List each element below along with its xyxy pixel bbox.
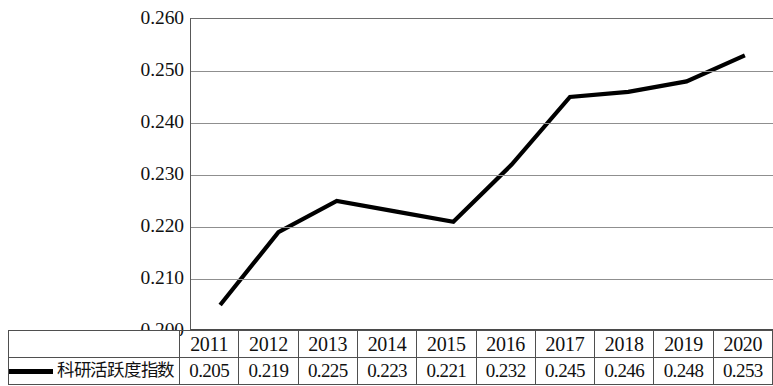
plot-area: [190, 18, 773, 330]
table-header-year: 2015: [417, 331, 476, 358]
data-table: 2011201220132014201520162017201820192020…: [8, 330, 773, 385]
series-line-科研活跃度指数: [220, 55, 745, 305]
table-header-year: 2012: [239, 331, 298, 358]
table-cell-value: 0.205: [180, 358, 239, 385]
table-cell-value: 0.221: [417, 358, 476, 385]
gridline-0.240: [191, 123, 773, 124]
table-header-year: 2011: [180, 331, 239, 358]
table-row-values: 科研活跃度指数 0.2050.2190.2250.2230.2210.2320.…: [9, 358, 773, 385]
legend-label: 科研活跃度指数: [57, 362, 174, 380]
y-axis-tick-label: 0.250: [141, 59, 184, 81]
y-axis-tick-label: 0.230: [141, 163, 184, 185]
table-cell-value: 0.245: [535, 358, 594, 385]
table-cell-value: 0.219: [239, 358, 298, 385]
gridline-0.250: [191, 71, 773, 72]
data-table-wrap: 2011201220132014201520162017201820192020…: [8, 330, 773, 386]
legend-entry: 科研活跃度指数: [9, 358, 180, 385]
table-header-year: 2018: [595, 331, 654, 358]
gridline-0.210: [191, 279, 773, 280]
table-cell-value: 0.248: [654, 358, 713, 385]
y-axis-tick-label: 0.220: [141, 215, 184, 237]
table-header-year: 2020: [713, 331, 772, 358]
y-axis-tick-label: 0.240: [141, 111, 184, 133]
table-row-years: 2011201220132014201520162017201820192020: [9, 331, 773, 358]
gridline-0.230: [191, 175, 773, 176]
table-cell-value: 0.253: [713, 358, 772, 385]
y-axis-tick-label: 0.210: [141, 267, 184, 289]
table-cell-value: 0.232: [476, 358, 535, 385]
table-cell-value: 0.225: [298, 358, 357, 385]
y-axis-tick-label: 0.260: [141, 7, 184, 29]
table-cell-value: 0.246: [595, 358, 654, 385]
table-header-year: 2019: [654, 331, 713, 358]
table-header-year: 2017: [535, 331, 594, 358]
table-header-year: 2016: [476, 331, 535, 358]
table-corner-blank: [9, 331, 180, 358]
chart-figure: 0.2600.2500.2400.2300.2200.2100.200 2011…: [0, 0, 773, 386]
table-cell-value: 0.223: [357, 358, 416, 385]
legend-line-swatch-icon: [9, 369, 53, 374]
gridline-0.220: [191, 227, 773, 228]
table-header-year: 2014: [357, 331, 416, 358]
table-header-year: 2013: [298, 331, 357, 358]
y-axis-labels: 0.2600.2500.2400.2300.2200.2100.200: [112, 0, 184, 340]
